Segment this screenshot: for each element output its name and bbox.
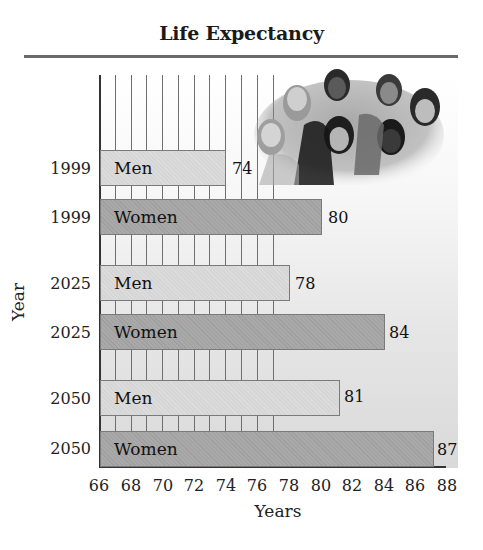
y-tick-1999-women: 1999 [50, 208, 91, 227]
x-tick-76: 76 [242, 476, 272, 495]
bar-label: Women [101, 439, 178, 459]
y-axis-label: Year [8, 277, 28, 327]
bar-value-1999-women: 80 [328, 208, 348, 227]
bar-label: Men [101, 388, 152, 408]
bar-label: Women [101, 322, 178, 342]
bar-2050-women: Women [100, 431, 434, 467]
bar-value-2025-men: 78 [295, 274, 315, 293]
plot-area: Men 74 Women 80 Men 78 Women 84 Men 81 W… [99, 75, 458, 468]
x-tick-78: 78 [274, 476, 304, 495]
x-tick-84: 84 [369, 476, 399, 495]
chart-title: Life Expectancy [0, 22, 483, 44]
y-tick-2025-women: 2025 [50, 323, 91, 342]
bar-1999-men: Men [100, 150, 226, 186]
bar-2050-men: Men [100, 380, 340, 416]
bar-value-1999-men: 74 [232, 159, 252, 178]
bar-value-2025-women: 84 [389, 323, 409, 342]
x-axis-label: Years [0, 501, 483, 521]
bar-label: Men [101, 158, 152, 178]
x-tick-66: 66 [84, 476, 114, 495]
x-tick-74: 74 [211, 476, 241, 495]
y-tick-2050-men: 2050 [50, 389, 91, 408]
x-tick-68: 68 [116, 476, 146, 495]
bar-2025-men: Men [100, 265, 290, 301]
bar-value-2050-men: 81 [344, 387, 364, 406]
people-photo [249, 55, 449, 185]
x-tick-80: 80 [306, 476, 336, 495]
x-tick-86: 86 [400, 476, 430, 495]
y-tick-2050-women: 2050 [50, 439, 91, 458]
x-tick-70: 70 [148, 476, 178, 495]
x-tick-72: 72 [179, 476, 209, 495]
bar-label: Women [101, 207, 178, 227]
x-tick-82: 82 [337, 476, 367, 495]
bar-2025-women: Women [100, 314, 385, 350]
bar-1999-women: Women [100, 199, 322, 235]
y-tick-1999-men: 1999 [50, 159, 91, 178]
bar-label: Men [101, 273, 152, 293]
bar-value-2050-women: 87 [437, 440, 457, 459]
x-tick-88: 88 [432, 476, 462, 495]
y-tick-2025-men: 2025 [50, 274, 91, 293]
